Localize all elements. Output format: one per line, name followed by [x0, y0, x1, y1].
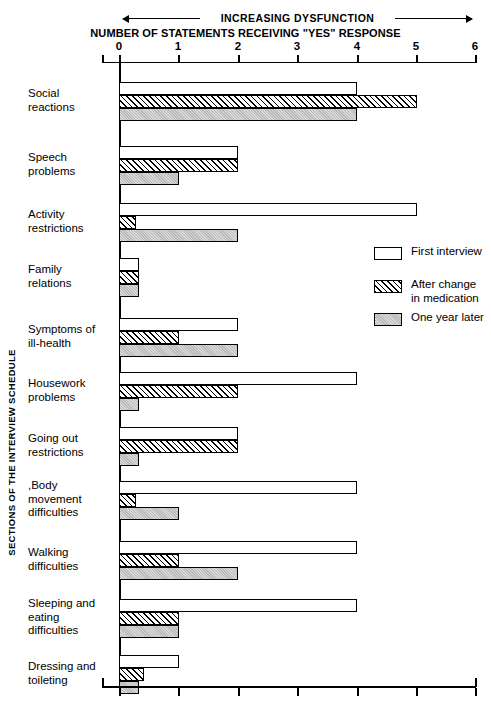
legend-swatch-after-change [374, 280, 402, 293]
increasing-dysfunction-label: INCREASING DYSFUNCTION [119, 10, 476, 26]
bar-one-year-later-7 [119, 507, 179, 520]
bar-first-interview-3 [119, 258, 139, 271]
bar-first-interview-1 [119, 146, 238, 159]
bar-one-year-later-0 [119, 108, 357, 121]
tick-label-3: 3 [294, 40, 300, 52]
bar-one-year-later-8 [119, 567, 238, 580]
bottom-axis-right-cap [475, 678, 477, 687]
bar-first-interview-6 [119, 427, 238, 440]
legend-item-first-interview: First interview [374, 246, 491, 270]
tick-bottom-0 [119, 688, 121, 696]
category-label-3: Family relations [28, 263, 106, 290]
category-label-5: Housework problems [28, 377, 106, 404]
tick-label-2: 2 [235, 40, 241, 52]
category-label-4: Symptoms of ill-health [28, 323, 106, 350]
tick-bottom-5 [416, 688, 418, 696]
category-label-7: ,Body movement difficulties [28, 479, 106, 520]
bar-first-interview-4 [119, 318, 238, 331]
bar-after-change-in-medication-1 [119, 159, 238, 172]
bar-after-change-in-medication-0 [119, 95, 417, 108]
bar-first-interview-0 [119, 82, 357, 95]
bar-first-interview-10 [119, 655, 179, 668]
bar-one-year-later-6 [119, 453, 139, 466]
legend: First interview After change in medicati… [374, 246, 491, 345]
bar-after-change-in-medication-5 [119, 385, 238, 398]
tick-label-5: 5 [413, 40, 419, 52]
bar-after-change-in-medication-10 [119, 668, 144, 681]
legend-label-one-year-later: One year later [411, 311, 484, 325]
tick-bottom-3 [297, 688, 299, 696]
bar-after-change-in-medication-6 [119, 440, 238, 453]
bar-after-change-in-medication-7 [119, 494, 136, 507]
bar-one-year-later-2 [119, 229, 238, 242]
category-label-10: Dressing and toileting [28, 660, 106, 687]
legend-label-after-change: After change in medication [411, 278, 479, 305]
bar-one-year-later-4 [119, 344, 238, 357]
tick-bottom-1 [178, 688, 180, 696]
bar-first-interview-2 [119, 203, 417, 216]
bar-one-year-later-9 [119, 625, 179, 638]
category-label-6: Going out restrictions [28, 432, 106, 459]
bar-after-change-in-medication-3 [119, 271, 139, 284]
tick-bottom-2 [238, 688, 240, 696]
bar-after-change-in-medication-2 [119, 216, 136, 229]
increasing-dysfunction-annotation: INCREASING DYSFUNCTION [119, 10, 476, 26]
category-label-8: Walking difficulties [28, 546, 106, 573]
tick-label-0: 0 [116, 40, 122, 52]
bar-first-interview-9 [119, 599, 357, 612]
bar-after-change-in-medication-4 [119, 331, 179, 344]
bar-one-year-later-3 [119, 284, 139, 297]
bar-one-year-later-5 [119, 398, 139, 411]
category-label-9: Sleeping and eating difficulties [28, 597, 106, 638]
legend-label-first-interview: First interview [411, 245, 482, 259]
y-axis-caption: SECTIONS OF THE INTERVIEW SCHEDULE [6, 243, 17, 663]
x-axis-title: NUMBER OF STATEMENTS RECEIVING "YES" RES… [0, 27, 491, 39]
bar-one-year-later-1 [119, 172, 179, 185]
category-label-0: Social reactions [28, 87, 106, 114]
category-label-2: Activity restrictions [28, 208, 106, 235]
tick-bottom-6 [475, 688, 477, 696]
bar-after-change-in-medication-8 [119, 554, 179, 567]
bar-first-interview-5 [119, 372, 357, 385]
bar-first-interview-8 [119, 541, 357, 554]
legend-swatch-first-interview [374, 247, 402, 260]
tick-label-4: 4 [354, 40, 360, 52]
bar-after-change-in-medication-9 [119, 612, 179, 625]
tick-bottom-4 [357, 688, 359, 696]
legend-swatch-one-year-later [374, 313, 402, 326]
bottom-axis-line [102, 686, 476, 688]
bar-first-interview-7 [119, 481, 357, 494]
legend-item-one-year-later: One year later [374, 312, 491, 336]
tick-label-1: 1 [175, 40, 181, 52]
legend-item-after-change: After change in medication [374, 279, 491, 303]
tick-label-6: 6 [472, 40, 478, 52]
bottom-axis-left-cap [102, 678, 104, 687]
category-label-1: Speech problems [28, 151, 106, 178]
